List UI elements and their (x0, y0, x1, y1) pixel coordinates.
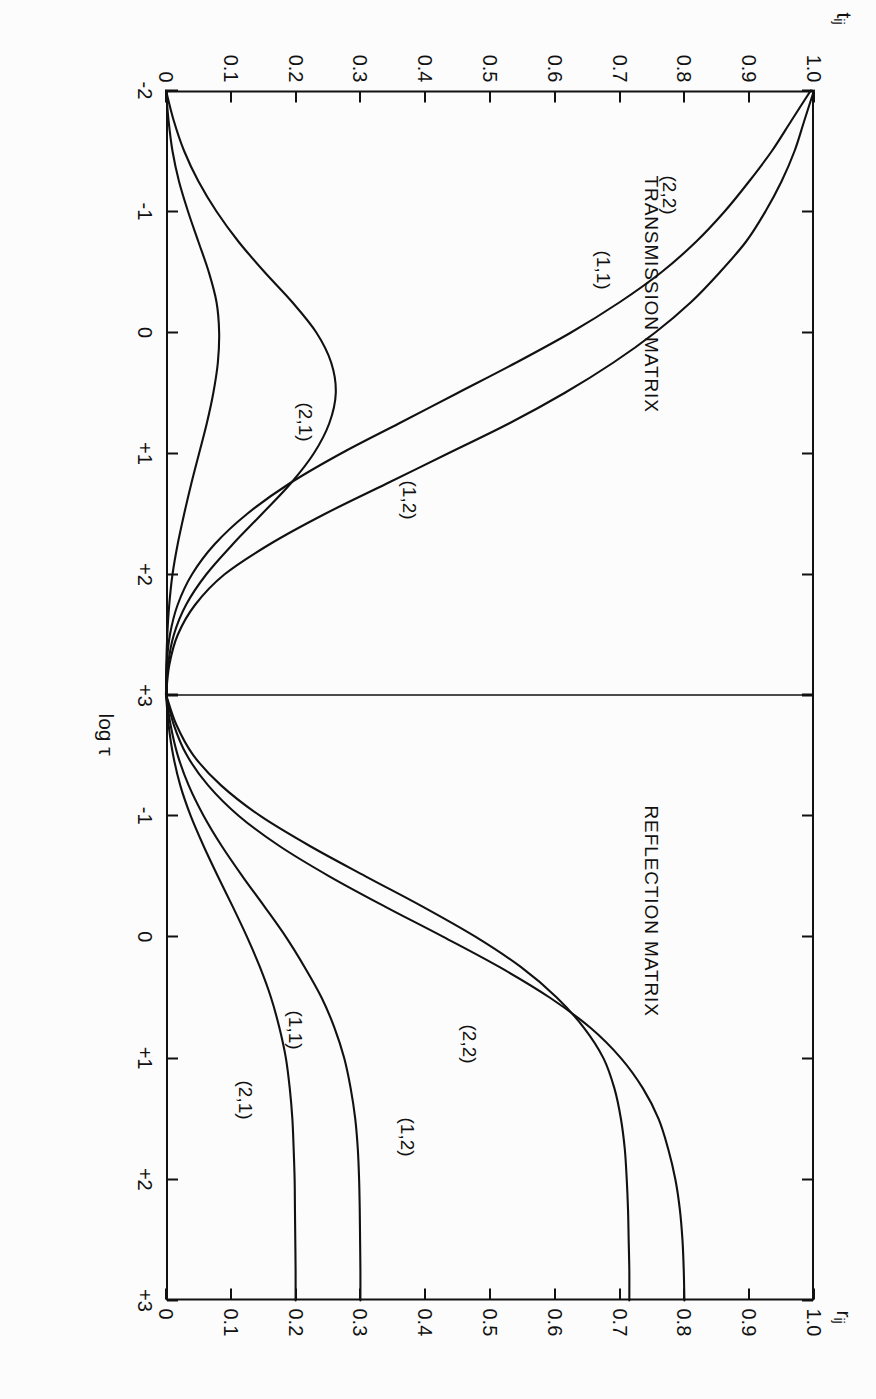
curve-transmission-12 (166, 90, 336, 695)
curve-reflection-11 (166, 694, 360, 1300)
curve-transmission-22 (166, 90, 814, 695)
curve-reflection-12 (166, 694, 684, 1300)
figure-canvas: TRANSMISSION MATRIX REFLECTION MATRIX ti… (0, 0, 876, 1399)
curve-reflection-21 (166, 694, 296, 1300)
figure-page: TRANSMISSION MATRIX REFLECTION MATRIX ti… (0, 0, 876, 1399)
curve-transmission-11 (166, 90, 811, 695)
rotated-figure-stage: TRANSMISSION MATRIX REFLECTION MATRIX ti… (0, 0, 876, 1399)
curve-reflection-22 (166, 694, 629, 1300)
curve-transmission-21 (166, 90, 219, 695)
curves-svg (0, 0, 876, 1399)
